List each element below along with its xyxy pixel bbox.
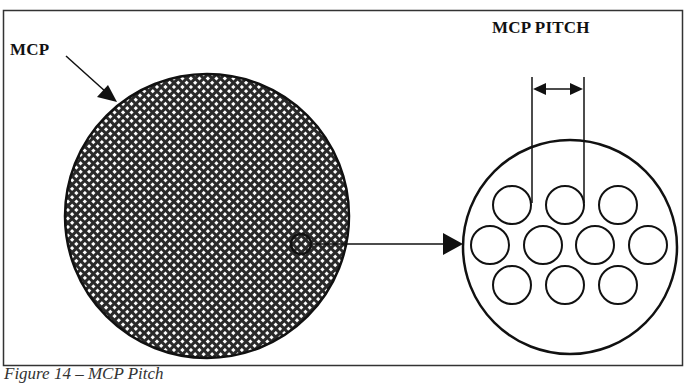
mcp-pointer-arrow-line (66, 56, 106, 92)
pitch-arrowhead-left (533, 83, 546, 95)
mcp-pitch-label: MCP PITCH (492, 18, 590, 38)
mcp-label: MCP (10, 40, 49, 60)
magnify-arrowhead (443, 233, 463, 255)
figure-caption: Figure 14 – MCP Pitch (4, 364, 164, 384)
mcp-disk (65, 74, 349, 358)
pitch-arrowhead-right (570, 83, 583, 95)
